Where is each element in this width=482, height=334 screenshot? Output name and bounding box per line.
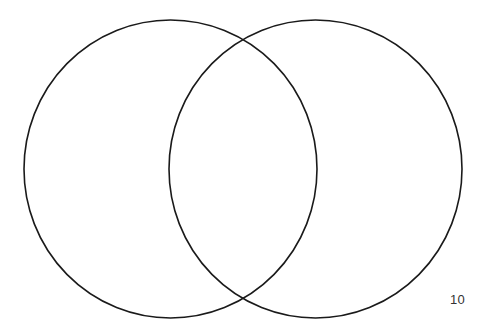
venn-left-circle bbox=[24, 20, 317, 318]
venn-diagram bbox=[0, 0, 482, 334]
page-number: 10 bbox=[450, 293, 465, 307]
venn-right-circle bbox=[169, 20, 462, 318]
